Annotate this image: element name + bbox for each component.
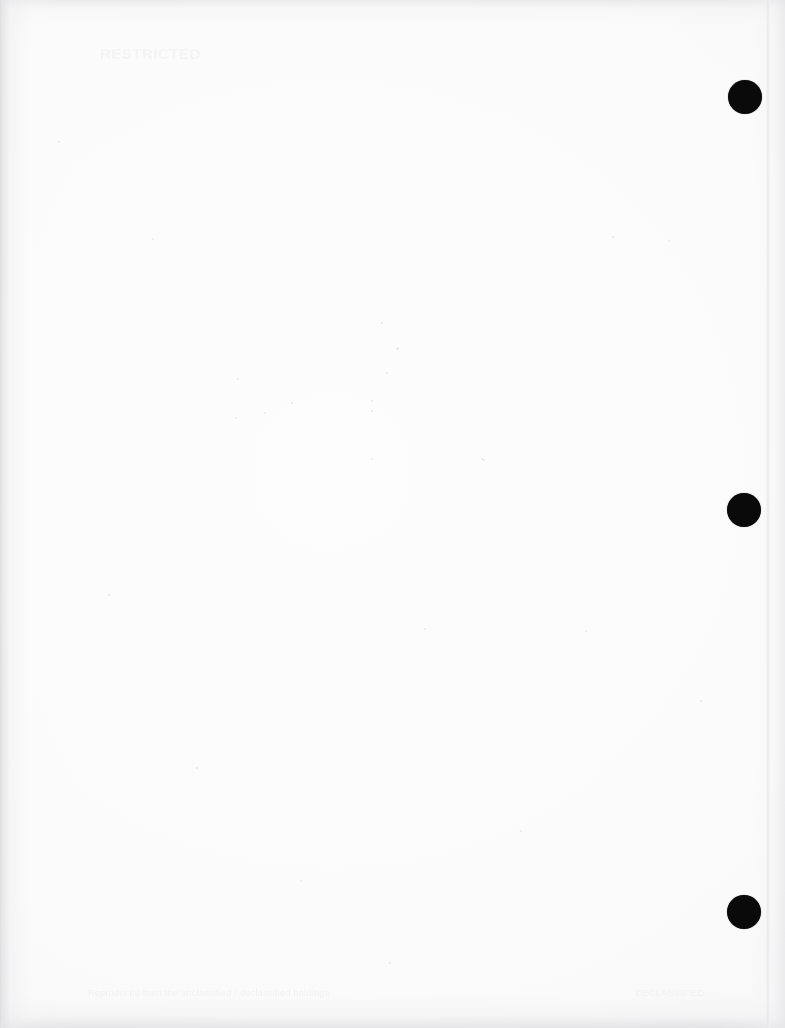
punch-mark-bottom-icon: [727, 895, 761, 929]
footer-ghost-text-right: DECLASSIFIED: [636, 988, 705, 998]
punch-mark-middle-icon: [727, 493, 761, 527]
footer-ghost-text: Reproduced from the unclassified / decla…: [88, 988, 329, 998]
right-edge-seam: [766, 0, 770, 1028]
scanned-page: RESTRICTED Reproduced from the unclassif…: [0, 0, 785, 1028]
left-edge-shadow: [0, 0, 3, 1028]
punch-mark-top-icon: [728, 80, 762, 114]
header-ghost-text: RESTRICTED: [100, 45, 201, 62]
paper-tone-overlay: [0, 0, 785, 1028]
